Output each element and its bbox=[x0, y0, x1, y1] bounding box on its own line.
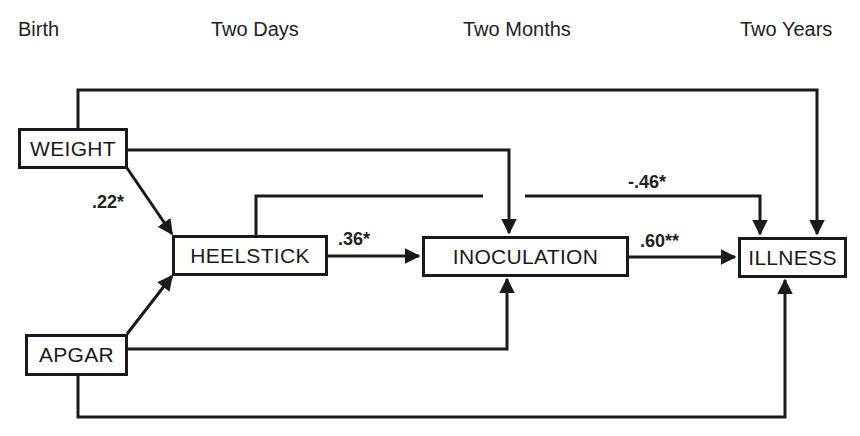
coef-heelstick-inoculation: .36* bbox=[338, 229, 370, 250]
node-weight: WEIGHT bbox=[18, 128, 128, 169]
node-inoculation: INOCULATION bbox=[422, 236, 629, 277]
node-apgar-label: APGAR bbox=[39, 343, 114, 367]
node-inoculation-label: INOCULATION bbox=[453, 245, 598, 269]
path-heelstick-illness-b bbox=[525, 196, 760, 234]
coef-weight-heelstick: .22* bbox=[92, 192, 124, 213]
path-weight-inoculation bbox=[127, 150, 509, 233]
path-weight-illness bbox=[78, 90, 817, 234]
path-apgar-heelstick bbox=[127, 276, 172, 334]
path-apgar-inoculation bbox=[127, 279, 507, 349]
coef-heelstick-illness: -.46* bbox=[628, 172, 666, 193]
node-weight-label: WEIGHT bbox=[30, 137, 116, 161]
node-apgar: APGAR bbox=[25, 334, 128, 376]
path-connectors bbox=[0, 0, 860, 436]
node-illness-label: ILLNESS bbox=[748, 246, 836, 270]
coef-inoculation-illness: .60** bbox=[640, 231, 679, 252]
node-heelstick-label: HEELSTICK bbox=[190, 244, 309, 268]
node-illness: ILLNESS bbox=[738, 237, 847, 278]
node-heelstick: HEELSTICK bbox=[172, 235, 328, 276]
path-weight-heelstick bbox=[127, 168, 172, 234]
